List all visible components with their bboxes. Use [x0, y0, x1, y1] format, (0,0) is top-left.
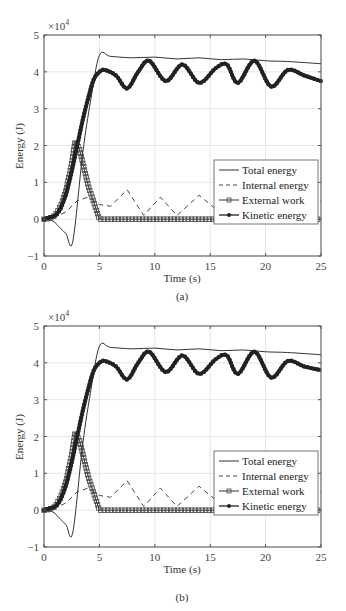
legend: Total energyInternal energyExternal work… [214, 451, 318, 515]
figure-caption: (b) [176, 591, 189, 604]
x-tick-label: 10 [149, 260, 161, 272]
y-tick-label: 2 [34, 140, 40, 152]
dot-marker-icon [227, 213, 231, 217]
x-tick-label: 10 [149, 551, 161, 563]
y-exponent: ×104 [48, 18, 69, 32]
figure-b: 0510152025−1012345 ×104 Time (s) Energy … [0, 291, 346, 611]
y-tick-label: 5 [34, 320, 40, 332]
y-axis-label: Energy (J) [13, 123, 26, 169]
energy-chart-b: 0510152025−1012345 ×104 Time (s) Energy … [0, 291, 346, 611]
y-tick-label: 1 [34, 176, 40, 188]
figure-a: 0510152025−1012345 ×104 Time (s) Energy … [0, 0, 346, 305]
legend-label: External work [242, 194, 305, 206]
legend-label: External work [242, 485, 305, 497]
legend: Total energyInternal energyExternal work… [214, 160, 318, 224]
y-tick-label: 0 [34, 213, 40, 225]
energy-chart-a: 0510152025−1012345 ×104 Time (s) Energy … [0, 0, 346, 305]
legend-label: Total energy [242, 455, 297, 467]
x-tick-label: 0 [41, 260, 47, 272]
y-tick-label: 3 [34, 103, 40, 115]
x-tick-label: 15 [205, 260, 217, 272]
x-tick-label: 20 [260, 260, 272, 272]
x-tick-label: 5 [97, 260, 103, 272]
legend-label: Kinetic energy [242, 209, 307, 221]
y-tick-label: 2 [34, 431, 40, 443]
legend-label: Total energy [242, 164, 297, 176]
x-tick-label: 5 [97, 551, 103, 563]
x-tick-label: 25 [316, 260, 328, 272]
x-tick-label: 20 [260, 551, 272, 563]
y-tick-label: 4 [34, 66, 40, 78]
y-tick-label: 3 [34, 394, 40, 406]
x-tick-label: 0 [41, 551, 47, 563]
legend-label: Internal energy [242, 179, 309, 191]
y-tick-label: 4 [34, 357, 40, 369]
legend-label: Kinetic energy [242, 500, 307, 512]
x-axis-label: Time (s) [163, 272, 201, 285]
y-tick-label: −1 [27, 541, 39, 553]
legend-label: Internal energy [242, 470, 309, 482]
x-tick-label: 25 [316, 551, 328, 563]
dot-marker-icon [227, 504, 231, 508]
y-tick-label: 1 [34, 467, 40, 479]
y-axis-label: Energy (J) [13, 414, 26, 460]
y-tick-label: 0 [34, 504, 40, 516]
x-tick-label: 15 [205, 551, 217, 563]
y-exponent: ×104 [48, 309, 69, 323]
y-tick-label: 5 [34, 29, 40, 41]
y-tick-label: −1 [27, 250, 39, 262]
x-axis-label: Time (s) [163, 563, 201, 576]
